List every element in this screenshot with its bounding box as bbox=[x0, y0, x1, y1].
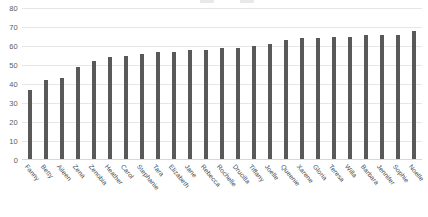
x-axis-label-slot: Carol bbox=[118, 161, 134, 217]
x-axis-label-slot: Stephanie bbox=[134, 161, 150, 217]
bar bbox=[140, 54, 144, 160]
x-axis-label-slot: Rochelle bbox=[214, 161, 230, 217]
bar-slot bbox=[182, 8, 198, 160]
bar-slot bbox=[134, 8, 150, 160]
x-axis-label-slot: Betty bbox=[38, 161, 54, 217]
bar-slot bbox=[262, 8, 278, 160]
bar bbox=[156, 52, 160, 160]
bar-chart: 01020304050607080 FannyBettyAileenZenaZe… bbox=[0, 0, 428, 217]
bar-slot bbox=[246, 8, 262, 160]
x-axis-label-slot: Barbara bbox=[358, 161, 374, 217]
y-axis-tick-label: 0 bbox=[14, 156, 18, 165]
x-axis-label-slot: Elizabeth bbox=[166, 161, 182, 217]
bar-slot bbox=[102, 8, 118, 160]
bar-slot bbox=[278, 8, 294, 160]
x-axis-tick-label: Willa bbox=[344, 163, 359, 179]
legend-swatch bbox=[240, 0, 254, 3]
bar-slot bbox=[374, 8, 390, 160]
x-axis: FannyBettyAileenZenaZenobiaHeatherCarolS… bbox=[22, 161, 422, 217]
bar-slot bbox=[214, 8, 230, 160]
x-axis-tick-label: Tara bbox=[152, 163, 166, 178]
bar-slot bbox=[118, 8, 134, 160]
legend-swatch bbox=[200, 0, 214, 3]
bar bbox=[300, 38, 304, 160]
bar bbox=[364, 35, 368, 160]
bar bbox=[92, 61, 96, 160]
bars-series bbox=[22, 8, 422, 160]
bar bbox=[172, 52, 176, 160]
bar bbox=[204, 50, 208, 160]
x-axis-label-slot: Tiffany bbox=[246, 161, 262, 217]
bar-slot bbox=[150, 8, 166, 160]
x-axis-line bbox=[22, 159, 422, 160]
y-axis-tick-label: 80 bbox=[9, 4, 18, 13]
x-axis-tick-label: Jane bbox=[184, 163, 199, 179]
bar bbox=[28, 90, 32, 160]
x-axis-tick-label: Betty bbox=[40, 163, 55, 179]
bar bbox=[412, 31, 416, 160]
legend bbox=[200, 0, 290, 3]
x-axis-tick-label: Noelle bbox=[408, 163, 426, 182]
bar bbox=[252, 46, 256, 160]
x-axis-label-slot: Zena bbox=[70, 161, 86, 217]
bar-slot bbox=[406, 8, 422, 160]
bar bbox=[108, 57, 112, 160]
bar bbox=[76, 67, 80, 160]
x-axis-label-slot: Rebecca bbox=[198, 161, 214, 217]
x-axis-label-slot: Queenie bbox=[278, 161, 294, 217]
bar-slot bbox=[70, 8, 86, 160]
x-axis-label-slot: Jennifer bbox=[374, 161, 390, 217]
x-axis-label-slot: Drucilla bbox=[230, 161, 246, 217]
bar-slot bbox=[22, 8, 38, 160]
y-axis-tick-label: 20 bbox=[9, 118, 18, 127]
x-axis-label-slot: Jane bbox=[182, 161, 198, 217]
y-axis-tick-label: 30 bbox=[9, 99, 18, 108]
x-axis-label-slot: Fanny bbox=[22, 161, 38, 217]
bar-slot bbox=[310, 8, 326, 160]
x-axis-label-slot: Tara bbox=[150, 161, 166, 217]
x-axis-tick-label: Zena bbox=[72, 163, 87, 179]
y-axis-tick-label: 10 bbox=[9, 137, 18, 146]
bar bbox=[44, 80, 48, 160]
y-axis-tick-label: 40 bbox=[9, 80, 18, 89]
x-axis-label-slot: Noelle bbox=[406, 161, 422, 217]
bar bbox=[236, 48, 240, 160]
x-axis-label-slot: Joelle bbox=[262, 161, 278, 217]
bar bbox=[332, 37, 336, 161]
bar bbox=[284, 40, 288, 160]
bar-slot bbox=[294, 8, 310, 160]
y-axis: 01020304050607080 bbox=[0, 8, 20, 160]
x-axis-label-slot: Xarene bbox=[294, 161, 310, 217]
bar-slot bbox=[54, 8, 70, 160]
bar-slot bbox=[230, 8, 246, 160]
x-axis-label-slot: Zenobia bbox=[86, 161, 102, 217]
bar-slot bbox=[38, 8, 54, 160]
bar-slot bbox=[198, 8, 214, 160]
x-axis-label-slot: Willa bbox=[342, 161, 358, 217]
y-axis-tick-label: 50 bbox=[9, 61, 18, 70]
bar-slot bbox=[342, 8, 358, 160]
y-axis-tick-label: 60 bbox=[9, 42, 18, 51]
bar bbox=[188, 50, 192, 160]
bar bbox=[380, 35, 384, 160]
bar-slot bbox=[166, 8, 182, 160]
bar bbox=[396, 35, 400, 160]
x-axis-label-slot: Gloria bbox=[310, 161, 326, 217]
bar bbox=[124, 56, 128, 161]
bar bbox=[316, 38, 320, 160]
bar bbox=[348, 37, 352, 161]
bar-slot bbox=[326, 8, 342, 160]
plot-area bbox=[22, 8, 422, 160]
bar bbox=[220, 48, 224, 160]
bar-slot bbox=[390, 8, 406, 160]
bar-slot bbox=[86, 8, 102, 160]
x-axis-label-slot: Aileen bbox=[54, 161, 70, 217]
bar-slot bbox=[358, 8, 374, 160]
x-axis-label-slot: Sophie bbox=[390, 161, 406, 217]
bar bbox=[268, 44, 272, 160]
x-axis-label-slot: Heather bbox=[102, 161, 118, 217]
bar bbox=[60, 78, 64, 160]
y-axis-tick-label: 70 bbox=[9, 23, 18, 32]
x-axis-label-slot: Teresa bbox=[326, 161, 342, 217]
